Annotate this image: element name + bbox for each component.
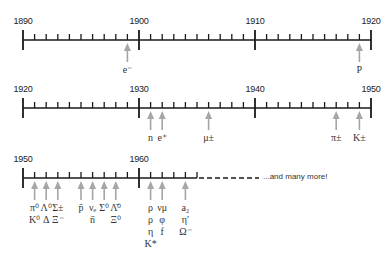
particle-timeline-diagram: 1890190019101920e⁻P1920193019401950ne⁺μ±… bbox=[0, 0, 392, 260]
year-label: 1890 bbox=[13, 16, 32, 26]
discovery-arrow bbox=[89, 181, 96, 200]
year-label: 1920 bbox=[361, 16, 380, 26]
continuation-text: ...and many more! bbox=[263, 172, 327, 181]
year-label: 1900 bbox=[129, 16, 148, 26]
particle-label: μ± bbox=[203, 132, 214, 144]
particle-label: νₑ bbox=[89, 202, 96, 214]
particle-label: n̄ bbox=[90, 214, 95, 226]
year-label: 1960 bbox=[129, 154, 148, 164]
discovery-arrow bbox=[356, 111, 363, 130]
particle-label: n bbox=[148, 132, 153, 144]
particle-label: Δ bbox=[43, 214, 49, 226]
particle-label: P bbox=[357, 64, 363, 76]
discovery-arrow bbox=[43, 181, 50, 200]
particle-label: a₂ bbox=[181, 202, 189, 214]
year-label: 1950 bbox=[361, 84, 380, 94]
discovery-arrow bbox=[31, 181, 38, 200]
discovery-arrow bbox=[159, 181, 166, 200]
particle-label: ρ bbox=[148, 214, 153, 226]
particle-label: Λ̄⁰ bbox=[110, 202, 121, 214]
particle-label: f bbox=[161, 226, 164, 238]
discovery-arrow bbox=[147, 181, 154, 200]
discovery-arrow bbox=[159, 111, 166, 130]
discovery-arrow bbox=[333, 111, 340, 130]
discovery-arrow bbox=[147, 111, 154, 130]
particle-label: Ξ⁰ bbox=[111, 214, 121, 226]
particle-label: Λ⁰ bbox=[41, 202, 52, 214]
discovery-arrow bbox=[54, 181, 61, 200]
particle-label: K± bbox=[353, 132, 366, 144]
particle-label: π⁰ bbox=[30, 202, 39, 214]
particle-label: νμ bbox=[157, 202, 167, 214]
particle-label: K⁰ bbox=[29, 214, 40, 226]
particle-label: e⁻ bbox=[123, 64, 132, 76]
particle-label: φ bbox=[159, 214, 165, 226]
particle-label: ρ bbox=[148, 202, 153, 214]
discovery-arrow bbox=[124, 43, 131, 62]
particle-label: Ω⁻ bbox=[179, 226, 191, 238]
particle-label: Ξ⁻ bbox=[52, 214, 63, 226]
year-label: 1910 bbox=[245, 16, 264, 26]
particle-label: π± bbox=[331, 132, 342, 144]
particle-label: e⁺ bbox=[157, 132, 166, 144]
particle-label: K* bbox=[144, 238, 156, 250]
particle-label: Σ± bbox=[52, 202, 63, 214]
year-label: 1920 bbox=[13, 84, 32, 94]
discovery-arrow bbox=[356, 43, 363, 62]
discovery-arrow bbox=[182, 181, 189, 200]
year-label: 1940 bbox=[245, 84, 264, 94]
discovery-arrow bbox=[112, 181, 119, 200]
discovery-arrow bbox=[101, 181, 108, 200]
discovery-arrow bbox=[78, 181, 85, 200]
particle-label: Σ⁰ bbox=[99, 202, 109, 214]
particle-label: η bbox=[148, 226, 153, 238]
particle-label: η′ bbox=[182, 214, 189, 226]
year-label: 1950 bbox=[13, 154, 32, 164]
year-label: 1930 bbox=[129, 84, 148, 94]
particle-label: p̄ bbox=[79, 202, 84, 214]
discovery-arrow bbox=[205, 111, 212, 130]
